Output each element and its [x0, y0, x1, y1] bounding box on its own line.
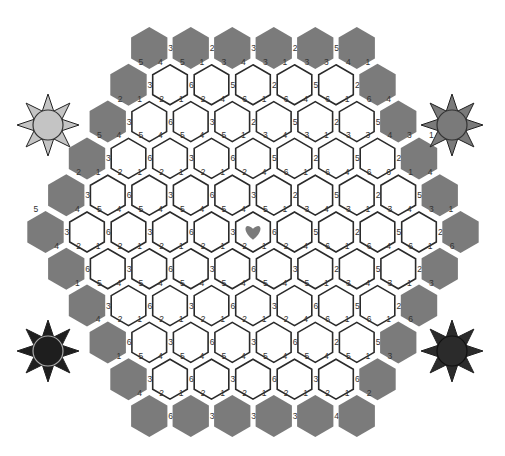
edge-number-label: 4	[324, 204, 329, 214]
edge-number-label: 2	[118, 241, 123, 251]
edge-number-label: 2	[284, 388, 289, 398]
edge-number-label: 3	[251, 337, 256, 347]
edge-number-label: 4	[303, 241, 308, 251]
edge-number-label: 2	[376, 190, 381, 200]
edge-number-label: 2	[159, 94, 164, 104]
edge-number-label: 4	[262, 167, 267, 177]
edge-number-label: 6	[85, 264, 90, 274]
edge-number-label: 3	[314, 374, 319, 384]
edge-number-label: 5	[222, 204, 227, 214]
edge-number-label: 6	[168, 264, 173, 274]
border-hex: 16	[380, 314, 416, 363]
edge-number-label: 5	[272, 153, 277, 163]
edge-number-label: 5	[139, 351, 144, 361]
edge-number-label: 1	[407, 278, 412, 288]
edge-number-label: 2	[251, 117, 256, 127]
edge-number-label: 6	[210, 337, 215, 347]
edge-number-label: 4	[54, 241, 59, 251]
edge-number-label: 6	[325, 94, 330, 104]
edge-number-label: 2	[397, 301, 402, 311]
border-hex: 5	[297, 27, 339, 69]
edge-number-label: 1	[179, 241, 184, 251]
edge-number-label: 3	[263, 130, 268, 140]
edge-number-label: 5	[355, 301, 360, 311]
edge-number-label: 3	[272, 301, 277, 311]
edge-number-label: 3	[106, 153, 111, 163]
edge-number-label: 2	[118, 314, 123, 324]
edge-number-label: 6	[367, 94, 372, 104]
edge-number-label: 2	[334, 117, 339, 127]
edge-number-label: 4	[346, 57, 351, 67]
edge-number-label: 3	[305, 130, 310, 140]
edge-number-label: 3	[346, 130, 351, 140]
edge-number-label: 6	[325, 167, 330, 177]
edge-number-label: 1	[408, 167, 413, 177]
edge-number-label: 3	[148, 80, 153, 90]
edge-number-label: 6	[168, 411, 173, 421]
edge-number-label: 5	[346, 351, 351, 361]
edge-number-label: 6	[367, 314, 372, 324]
edge-number-label: 4	[324, 351, 329, 361]
edge-number-label: 3	[251, 411, 256, 421]
edge-number-label: 2	[334, 337, 339, 347]
edge-number-label: 1	[220, 167, 225, 177]
edge-number-label: 5	[314, 80, 319, 90]
edge-number-label: 4	[388, 130, 393, 140]
edge-number-label: 4	[283, 351, 288, 361]
edge-number-label: 4	[200, 351, 205, 361]
sun-mid-top-right-icon	[419, 92, 485, 158]
edge-number-label: 6	[325, 314, 330, 324]
edge-number-label: 1	[179, 167, 184, 177]
edge-number-label: 3	[293, 264, 298, 274]
edge-number-label: 4	[283, 130, 288, 140]
edge-number-label: 2	[201, 388, 206, 398]
edge-number-label: 3	[429, 204, 434, 214]
edge-number-label: 5	[97, 204, 102, 214]
sun-dark-bottom-right-icon	[419, 318, 485, 384]
edge-number-label: 2	[242, 241, 247, 251]
edge-number-label: 3	[222, 57, 227, 67]
edge-number-label: 3	[388, 351, 393, 361]
edge-number-label: 5	[293, 117, 298, 127]
edge-number-label: 3	[388, 204, 393, 214]
edge-number-label: 1	[345, 388, 350, 398]
edge-number-label: 1	[262, 94, 267, 104]
edge-number-label: 3	[293, 411, 298, 421]
edge-number-label: 2	[242, 388, 247, 398]
edge-number-label: 5	[180, 57, 185, 67]
edge-number-label: 6	[148, 301, 153, 311]
edge-number-label: 3	[346, 278, 351, 288]
edge-number-label: 2	[242, 314, 247, 324]
edge-number-label: 3	[210, 411, 215, 421]
edge-number-label: 5	[305, 351, 310, 361]
edge-number-label: 3	[346, 204, 351, 214]
edge-number-label: 1	[303, 167, 308, 177]
edge-number-label: 1	[179, 94, 184, 104]
edge-number-label: 6	[293, 337, 298, 347]
edge-number-label: 3	[168, 43, 173, 53]
edge-number-label: 1	[324, 278, 329, 288]
edge-number-label: 5	[334, 43, 339, 53]
edge-number-label: 1	[283, 204, 288, 214]
edge-number-label: 2	[201, 94, 206, 104]
edge-number-label: 4	[366, 278, 371, 288]
edge-number-label: 3	[127, 264, 132, 274]
edge-number-label: 5	[97, 130, 102, 140]
edge-number-label: 1	[179, 388, 184, 398]
edge-number-label: 2	[201, 314, 206, 324]
edge-number-label: 1	[345, 94, 350, 104]
edge-number-label: 5	[397, 227, 402, 237]
edge-number-label: 4	[303, 94, 308, 104]
edge-number-label: 6	[272, 374, 277, 384]
edge-number-label: 1	[137, 167, 142, 177]
edge-number-label: 5	[263, 278, 268, 288]
edge-number-label: 2	[325, 388, 330, 398]
edge-number-label: 4	[386, 94, 391, 104]
edge-number-label: 2	[397, 153, 402, 163]
edge-number-label: 1	[220, 241, 225, 251]
edge-number-label: 2	[367, 388, 372, 398]
edge-number-label: 6	[231, 153, 236, 163]
edge-number-label: 1	[428, 241, 433, 251]
sun-light-top-left-icon	[15, 92, 81, 158]
edge-number-label: 2	[159, 167, 164, 177]
